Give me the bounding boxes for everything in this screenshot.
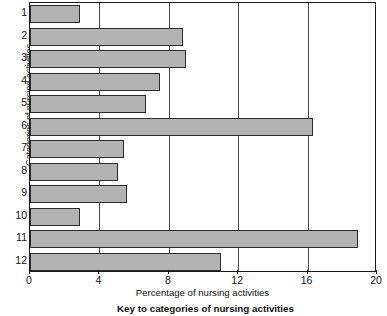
y-axis-tick-labels: 123456789101112 [7,2,27,272]
y-tick-label-1: 1 [7,7,27,18]
x-tick-label-16: 16 [292,274,322,286]
x-tick-label-12: 12 [222,274,252,286]
bar-category-10 [30,208,80,226]
bar-category-11 [30,230,358,248]
bar-category-4 [30,73,160,91]
bar-category-3 [30,50,186,68]
bar-category-5 [30,95,146,113]
x-axis-tick-labels: 048121620 [29,274,376,288]
y-tick-label-4: 4 [7,75,27,86]
plot-area [29,2,376,272]
y-tick-label-3: 3 [7,52,27,63]
bar-category-6 [30,118,313,136]
y-tick-label-8: 8 [7,165,27,176]
bar-category-9 [30,185,127,203]
bar-category-2 [30,28,183,46]
bar-category-1 [30,5,80,23]
y-tick-label-2: 2 [7,30,27,41]
y-tick-label-6: 6 [7,120,27,131]
bar-category-8 [30,163,118,181]
y-tick-label-11: 11 [7,232,27,243]
x-tick-label-20: 20 [361,274,387,286]
bar-series [30,3,375,271]
x-tick-label-8: 8 [153,274,183,286]
x-tick-label-4: 4 [83,274,113,286]
x-tick-label-0: 0 [14,274,44,286]
bar-category-12 [30,253,221,271]
chart-caption: Key to categories of nursing activities [29,303,382,316]
y-tick-label-12: 12 [7,255,27,266]
y-tick-label-10: 10 [7,210,27,221]
y-tick-label-7: 7 [7,142,27,153]
bar-category-7 [30,140,124,158]
y-tick-label-9: 9 [7,187,27,198]
x-axis-title: Percentage of nursing activities [29,287,376,298]
y-tick-label-5: 5 [7,97,27,108]
